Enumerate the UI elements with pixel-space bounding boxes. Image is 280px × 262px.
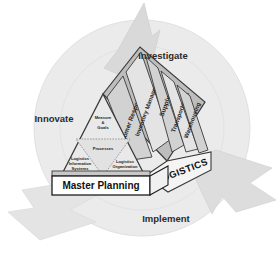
diagram-canvas: Customer Response Inventory Management S… [0,0,280,262]
logistics-framework-diagram: Customer Response Inventory Management S… [0,0,280,262]
measure-goals-line-3: Goals [97,125,109,130]
foundation-top-edge [52,171,150,176]
cycle-label-implement: Implement [142,213,190,224]
lo-line-2: Organization [112,164,138,169]
gable-label-processes: Processes [93,146,114,151]
gable-label-logistics-information-systems: Logistics Information Systems [69,156,92,171]
foundation-label: Master Planning [62,180,139,191]
cycle-label-investigate: Investigate [138,50,188,61]
cycle-label-innovate: Innovate [34,113,73,124]
lis-line-3: Systems [72,166,90,171]
